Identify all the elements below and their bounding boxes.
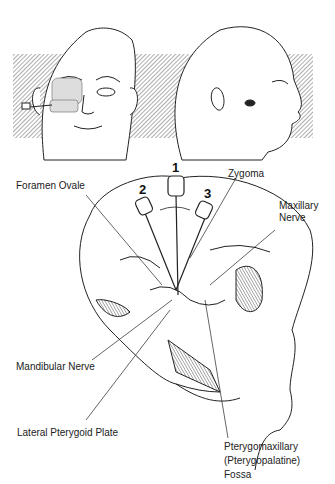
lateral-head	[175, 27, 301, 160]
skull	[80, 176, 313, 470]
needle-position-2: 2	[139, 182, 146, 197]
label-fossa-3: Fossa	[224, 469, 251, 481]
label-lateral-pterygoid-plate: Lateral Pterygoid Plate	[17, 427, 118, 439]
label-foramen-ovale: Foramen Ovale	[16, 180, 85, 192]
needle-position-1: 1	[172, 160, 179, 175]
label-fossa-1: Pterygomaxillary	[224, 441, 298, 453]
illustration	[0, 0, 335, 484]
label-maxillary-nerve-2: Nerve	[279, 212, 306, 224]
frontal-face	[22, 28, 138, 160]
label-maxillary-nerve-1: Maxillary	[279, 200, 318, 212]
label-mandibular-nerve: Mandibular Nerve	[16, 361, 95, 373]
label-zygoma: Zygoma	[228, 168, 264, 180]
label-fossa-2: (Pterygopalatine)	[224, 455, 300, 467]
needle-position-3: 3	[204, 186, 211, 201]
